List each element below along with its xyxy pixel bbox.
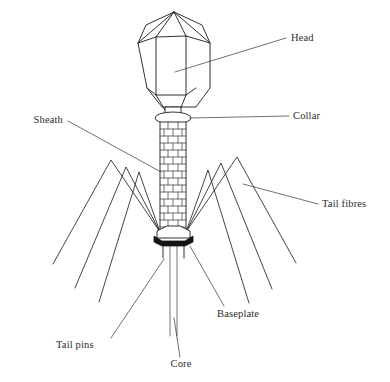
sheath bbox=[160, 122, 186, 232]
label-sheath: Sheath bbox=[34, 114, 64, 125]
bacteriophage-diagram: Head Collar Sheath Tail fibres Baseplate… bbox=[0, 0, 390, 382]
label-tail-fibres: Tail fibres bbox=[322, 198, 366, 209]
label-collar: Collar bbox=[293, 110, 320, 121]
label-baseplate: Baseplate bbox=[217, 308, 259, 319]
label-tail-pins: Tail pins bbox=[56, 339, 94, 350]
label-head: Head bbox=[291, 32, 314, 43]
label-core: Core bbox=[170, 358, 191, 369]
phage-illustration: Head Collar Sheath Tail fibres Baseplate… bbox=[0, 0, 390, 382]
